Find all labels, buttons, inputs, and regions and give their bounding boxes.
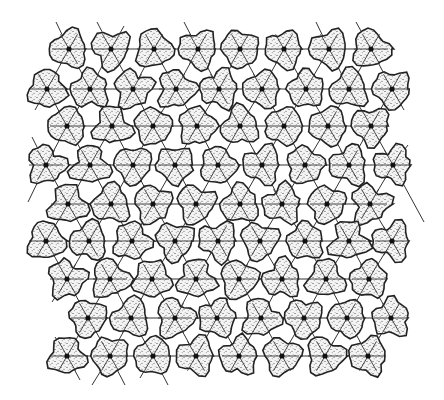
cell (70, 219, 107, 261)
cell (219, 333, 257, 375)
cell-center-dot (85, 315, 90, 320)
cell-center-dot (390, 162, 395, 167)
cell-center-dot (130, 162, 135, 167)
cell-center-dot (129, 238, 134, 243)
cell-center-dot (64, 353, 69, 358)
cell-center-dot (303, 86, 308, 91)
cell (110, 295, 149, 336)
cell-body (158, 70, 201, 107)
cell-center-dot (258, 315, 263, 320)
lattice-figure (0, 0, 444, 400)
cell (352, 183, 394, 226)
cell-center-dot (236, 276, 241, 281)
cell-body (93, 258, 133, 297)
cell (177, 185, 217, 225)
cell-center-dot (237, 46, 242, 51)
cell (90, 181, 130, 221)
cell-center-dot (237, 201, 242, 206)
cell-center-dot (172, 315, 177, 320)
cell-center-dot (388, 315, 393, 320)
cell-center-dot (150, 201, 155, 206)
cell (327, 300, 365, 339)
cell (91, 106, 135, 142)
cell-center-dot (128, 315, 133, 320)
cells (27, 27, 411, 377)
cell-center-dot (150, 123, 155, 128)
cell (179, 106, 219, 144)
cell (353, 28, 394, 66)
cell (49, 27, 86, 68)
cell-body (329, 67, 368, 107)
cell (199, 221, 236, 266)
cell-center-dot (236, 353, 241, 358)
cell-center-dot (108, 46, 113, 51)
cell-body (110, 295, 148, 336)
cell (372, 72, 410, 110)
cell (70, 67, 108, 107)
cell (286, 68, 323, 106)
cell-center-dot (368, 46, 373, 51)
cell (134, 107, 173, 145)
cell (286, 220, 323, 258)
cell-center-dot (281, 46, 286, 51)
cell-center-dot (259, 162, 264, 167)
cell (287, 145, 326, 184)
cell (304, 259, 347, 295)
cell-center-dot (86, 238, 91, 243)
cell (158, 70, 201, 107)
cell-center-dot (389, 238, 394, 243)
cell-center-dot (107, 353, 112, 358)
cell-center-dot (65, 201, 70, 206)
cell (349, 259, 387, 299)
cell-center-dot (322, 353, 327, 358)
cell (263, 338, 303, 377)
cell (131, 260, 174, 297)
cell-center-dot (367, 201, 372, 206)
cell-center-dot (172, 238, 177, 243)
cell (261, 256, 299, 297)
cell (329, 67, 368, 107)
cell-center-dot (215, 238, 220, 243)
cell-center-dot (301, 315, 306, 320)
cell-center-dot (325, 123, 330, 128)
cell-body (91, 32, 130, 73)
cell-center-dot (324, 201, 329, 206)
cell (329, 144, 366, 187)
cell-center-dot (193, 353, 198, 358)
cell-center-dot (149, 276, 154, 281)
cell (241, 222, 281, 261)
cell (221, 30, 259, 68)
cell (48, 106, 85, 145)
cell (373, 143, 411, 186)
cell (67, 146, 112, 182)
cell-center-dot (193, 201, 198, 206)
cell-center-dot (64, 276, 69, 281)
cell (176, 259, 220, 296)
cell (114, 148, 152, 186)
cell-center-dot (107, 276, 112, 281)
cell-body (261, 256, 298, 297)
cell-center-dot (259, 86, 264, 91)
cell (199, 298, 236, 338)
cell (372, 220, 409, 263)
cell (158, 298, 198, 339)
cell-center-dot (66, 46, 71, 51)
cell (262, 180, 300, 225)
cell-center-dot (194, 123, 199, 128)
cell-center-dot (302, 162, 307, 167)
cell-center-dot (237, 123, 242, 128)
cell-center-dot (195, 46, 200, 51)
cell (155, 149, 193, 187)
cell-center-dot (193, 276, 198, 281)
cell-center-dot (43, 238, 48, 243)
cell-body (353, 28, 394, 66)
cell-center-dot (279, 201, 284, 206)
cell-body (308, 337, 347, 376)
lattice-diagram (0, 0, 444, 400)
cell (220, 182, 259, 221)
cell-center-dot (215, 162, 220, 167)
cell-center-dot (257, 238, 262, 243)
cell (69, 301, 107, 339)
cell-center-dot (281, 123, 286, 128)
cell (176, 335, 213, 377)
